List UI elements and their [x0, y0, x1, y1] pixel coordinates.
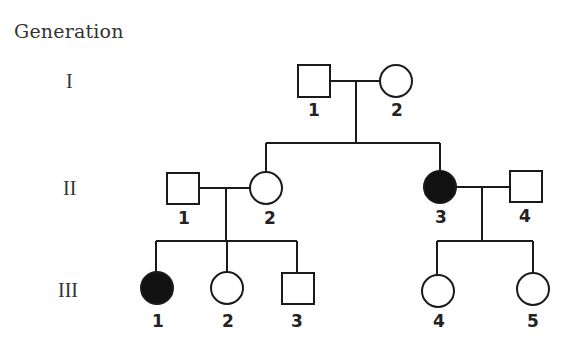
- individual-iii-3-male-square: [282, 273, 314, 304]
- individual-iii-1-affected-female-circle: [141, 272, 173, 304]
- individual-ii-1-male-square: [167, 173, 199, 204]
- individual-ii-2-number: 2: [264, 208, 276, 228]
- individual-iii-5-number: 5: [527, 311, 539, 331]
- individual-iii-5-female-circle: [517, 273, 549, 305]
- individual-ii-4-number: 4: [519, 206, 531, 226]
- individual-iii-4-female-circle: [422, 275, 454, 307]
- individual-i-2-number: 2: [391, 100, 403, 120]
- individual-ii-4-male-square: [510, 171, 542, 202]
- individual-i-1-male-square: [298, 65, 330, 97]
- individual-iii-1-number: 1: [152, 311, 164, 331]
- individual-ii-2-female-circle: [250, 172, 282, 204]
- individual-iii-3-number: 3: [291, 311, 303, 331]
- individual-iii-2-female-circle: [211, 272, 243, 304]
- individual-iii-2-number: 2: [222, 311, 234, 331]
- connector-lines: [156, 81, 533, 275]
- individual-ii-3-affected-female-circle: [424, 171, 456, 203]
- individual-i-2-female-circle: [380, 65, 412, 97]
- individual-ii-1-number: 1: [178, 208, 190, 228]
- individual-ii-3-number: 3: [435, 207, 447, 227]
- pedigree-chart: 1 2 1 2 3 4 1 2 3 4 5: [0, 0, 580, 352]
- individual-i-1-number: 1: [308, 100, 320, 120]
- individual-iii-4-number: 4: [433, 311, 445, 331]
